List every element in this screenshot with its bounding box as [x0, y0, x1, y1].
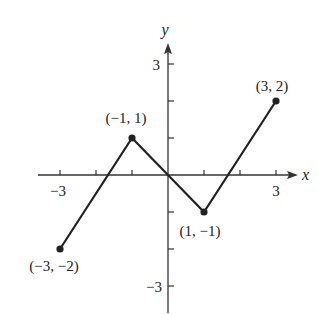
data-point [272, 97, 279, 104]
y-tick-label-pos3: 3 [153, 57, 161, 73]
point-label: (1, −1) [180, 223, 221, 240]
data-point [56, 245, 63, 252]
data-point [200, 208, 207, 215]
x-axis: −3 3 x [38, 166, 309, 199]
chart-canvas: −3 3 x 3 −3 y (−3, −2) (−1, 1) (1, −1) (… [0, 0, 318, 314]
y-tick-label-neg3: −3 [146, 279, 162, 295]
y-axis-label: y [159, 21, 169, 39]
x-axis-label: x [301, 166, 309, 183]
data-point [128, 134, 135, 141]
point-label: (−3, −2) [29, 258, 78, 275]
point-label: (−1, 1) [106, 110, 147, 127]
x-tick-label-neg3: −3 [50, 183, 66, 199]
point-label: (3, 2) [256, 78, 289, 95]
x-tick-label-pos3: 3 [272, 183, 280, 199]
